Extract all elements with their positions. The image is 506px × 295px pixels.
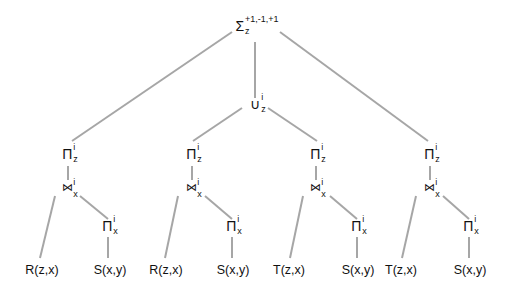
subscript: x	[474, 227, 479, 236]
subscript: x	[435, 190, 440, 199]
pi-symbol: Π	[463, 219, 473, 233]
join-node-1: ⋈ ix	[62, 180, 78, 200]
project-z-node-3: Π iz	[310, 147, 326, 165]
subscript: z	[73, 155, 78, 164]
edge-union-branch2	[193, 108, 242, 141]
leaf-relation-right-4: S(x,y)	[454, 264, 487, 277]
pi-symbol: Π	[186, 147, 196, 161]
leaf-relation-left-4: T(z,x)	[385, 264, 417, 277]
bowtie-join-symbol: ⋈	[186, 182, 196, 193]
leaf-relation-left-3: T(z,x)	[273, 264, 305, 277]
subscript: z	[197, 155, 202, 164]
superscript: i	[321, 178, 326, 187]
subscript: x	[362, 227, 367, 236]
pi-symbol: Π	[102, 219, 112, 233]
subscript: x	[197, 190, 202, 199]
pi-symbol: Π	[424, 147, 434, 161]
leaf-relation-right-1: S(x,y)	[94, 264, 127, 277]
project-x-node-3: Π ix	[351, 219, 367, 237]
pi-symbol: Π	[351, 219, 361, 233]
edge-root-branch4	[280, 32, 428, 141]
root-superscript: +1,-1,+1	[245, 15, 279, 24]
superscript: i	[197, 178, 202, 187]
superscript: i	[113, 215, 118, 224]
superscript: i	[435, 143, 440, 152]
superscript: i	[474, 215, 479, 224]
superscript: i	[237, 215, 242, 224]
subscript: z	[435, 155, 440, 164]
project-x-node-4: Π ix	[463, 219, 479, 237]
edge-union-branch3	[268, 108, 317, 141]
subscript: x	[113, 227, 118, 236]
project-z-node-4: Π iz	[424, 147, 440, 165]
superscript: i	[197, 143, 202, 152]
join-node-3: ⋈ ix	[310, 180, 326, 200]
subscript: x	[73, 190, 78, 199]
pi-symbol: Π	[310, 147, 320, 161]
union-superscript: i	[261, 93, 266, 102]
project-x-node-1: Π ix	[102, 219, 118, 237]
leaf-relation-right-3: S(x,y)	[342, 264, 375, 277]
bowtie-join-symbol: ⋈	[424, 182, 434, 193]
superscript: i	[321, 143, 326, 152]
edge-join-leftleaf-2	[165, 196, 178, 258]
edge-root-branch1	[72, 32, 232, 141]
leaf-relation-left-2: R(z,x)	[149, 264, 182, 277]
edge-join-leftleaf-3	[290, 196, 303, 258]
pi-symbol: Π	[62, 147, 72, 161]
subscript: z	[321, 155, 326, 164]
superscript: i	[73, 178, 78, 187]
project-x-node-2: Π ix	[226, 219, 242, 237]
root-subscript: z	[245, 27, 279, 36]
superscript: i	[362, 215, 367, 224]
union-subscript: z	[261, 105, 266, 114]
join-node-2: ⋈ ix	[186, 180, 202, 200]
leaf-relation-left-1: R(z,x)	[25, 264, 58, 277]
bowtie-join-symbol: ⋈	[62, 182, 72, 193]
edge-join-px-2	[205, 196, 232, 219]
join-node-4: ⋈ ix	[424, 180, 440, 200]
sigma-symbol: Σ	[235, 19, 244, 33]
edge-join-px-3	[330, 196, 357, 219]
edge-join-leftleaf-1	[40, 196, 55, 258]
superscript: i	[435, 178, 440, 187]
bowtie-join-symbol: ⋈	[310, 182, 320, 193]
edge-join-leftleaf-4	[402, 196, 416, 258]
subscript: x	[237, 227, 242, 236]
edge-join-px-1	[80, 196, 108, 219]
project-z-node-1: Π iz	[62, 147, 78, 165]
pi-symbol: Π	[226, 219, 236, 233]
leaf-relation-right-2: S(x,y)	[217, 264, 250, 277]
edge-join-px-4	[443, 196, 469, 219]
project-z-node-2: Π iz	[186, 147, 202, 165]
subscript: x	[321, 190, 326, 199]
root-sum-node: Σ +1,-1,+1 z	[235, 19, 278, 37]
superscript: i	[73, 143, 78, 152]
union-node: ∪ i z	[250, 97, 266, 115]
union-symbol: ∪	[250, 97, 260, 111]
